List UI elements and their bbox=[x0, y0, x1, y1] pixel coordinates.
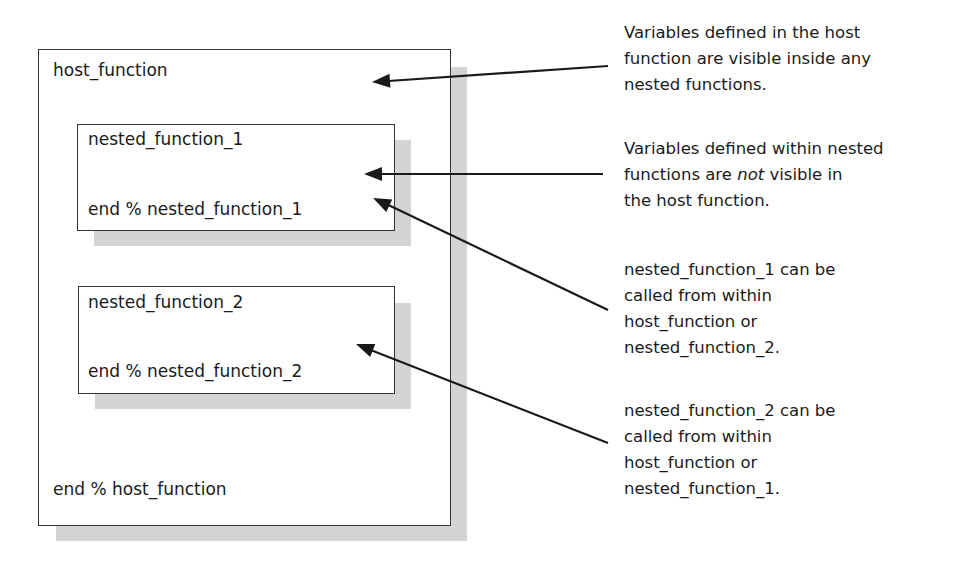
annotation-line: nested_function_2. bbox=[624, 335, 974, 361]
annotation-text: functions are bbox=[624, 165, 737, 184]
annotation-line: nested_function_2 can be bbox=[624, 398, 974, 424]
annotation-line: host_function or bbox=[624, 309, 974, 335]
annotation-line: function are visible inside any bbox=[624, 46, 974, 72]
annotation-nested-2-callable: nested_function_2 can be called from wit… bbox=[624, 398, 974, 502]
annotation-nested-1-callable: nested_function_1 can be called from wit… bbox=[624, 257, 974, 361]
annotation-host-visibility: Variables defined in the host function a… bbox=[624, 20, 974, 98]
arrow-to-nested-function-2 bbox=[363, 347, 608, 443]
arrow-head-1 bbox=[372, 74, 391, 89]
arrow-to-nested-function-1-end bbox=[380, 201, 608, 310]
annotation-line: nested functions. bbox=[624, 72, 974, 98]
annotation-line-with-emphasis: functions are not visible in bbox=[624, 162, 974, 188]
arrow-head-3 bbox=[370, 192, 392, 212]
annotation-line: called from within bbox=[624, 424, 974, 450]
annotation-line: Variables defined in the host bbox=[624, 20, 974, 46]
emphasis-not: not bbox=[737, 165, 764, 184]
annotation-line: host_function or bbox=[624, 450, 974, 476]
arrow-head-4 bbox=[353, 337, 375, 357]
annotation-line: called from within bbox=[624, 283, 974, 309]
annotation-line: the host function. bbox=[624, 188, 974, 214]
annotation-text: visible in bbox=[764, 165, 842, 184]
annotation-line: nested_function_1. bbox=[624, 476, 974, 502]
annotation-nested-visibility: Variables defined within nested function… bbox=[624, 136, 974, 214]
annotation-line: Variables defined within nested bbox=[624, 136, 974, 162]
annotation-line: nested_function_1 can be bbox=[624, 257, 974, 283]
arrow-head-2 bbox=[364, 167, 382, 181]
arrow-to-host-function bbox=[374, 66, 608, 82]
